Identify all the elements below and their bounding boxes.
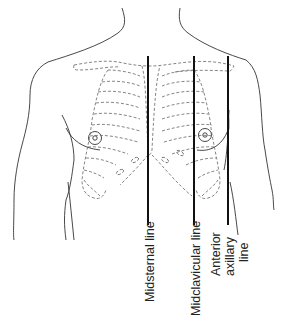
midsternal-label: Midsternal line bbox=[143, 221, 157, 302]
labels: Midsternal line Midclavicular line Anter… bbox=[143, 221, 251, 316]
anterior-axillary-label-line1: Anterior bbox=[209, 232, 223, 276]
midclavicular-label: Midclavicular line bbox=[189, 221, 203, 316]
chest-landmark-diagram: Midsternal line Midclavicular line Anter… bbox=[0, 0, 282, 326]
anterior-axillary-label-line3: line bbox=[237, 242, 251, 262]
torso-outline bbox=[14, 8, 274, 240]
rib-cage-dashed bbox=[74, 61, 234, 198]
anterior-axillary-label-line2: axillary bbox=[223, 236, 237, 276]
